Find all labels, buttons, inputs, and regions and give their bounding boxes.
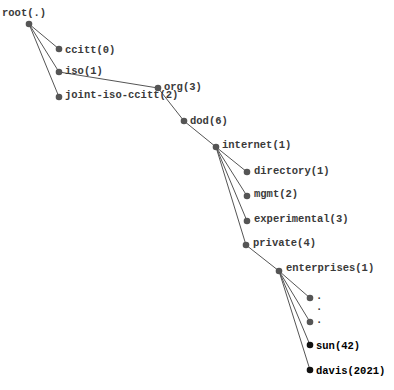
tree-node-directory: directory(1)	[244, 165, 330, 177]
edge-internet-mgmt	[216, 147, 247, 196]
tree-node-root: root(.)	[2, 7, 46, 27]
edge-internet-private	[216, 147, 246, 245]
node-label: mgmt(2)	[254, 188, 298, 200]
tree-node-experimental: experimental(3)	[244, 213, 349, 225]
node-dot-icon	[244, 169, 251, 176]
node-label: .	[316, 301, 322, 313]
node-dot-icon	[56, 46, 63, 53]
edge-enterprises-davis	[279, 271, 310, 370]
node-dot-icon	[181, 118, 188, 125]
node-label: root(.)	[2, 7, 46, 19]
node-label: directory(1)	[254, 165, 330, 177]
edge-root-ccitt	[29, 24, 59, 49]
node-label: experimental(3)	[254, 213, 349, 225]
tree-node-iso: iso(1)	[56, 65, 103, 77]
node-label: dod(6)	[190, 115, 228, 127]
node-dot-icon	[243, 242, 250, 249]
node-dot-icon	[26, 21, 33, 28]
node-label: enterprises(1)	[286, 262, 374, 274]
edge-enterprises-ellipsis2	[279, 271, 310, 322]
tree-node-joint: joint-iso-ccitt(2)	[56, 89, 179, 101]
tree-node-ccitt: ccitt(0)	[56, 44, 116, 56]
node-label: davis(2021)	[316, 365, 385, 377]
node-dot-icon	[244, 218, 251, 225]
tree-node-private: private(4)	[243, 237, 316, 249]
tree-node-internet: internet(1)	[213, 139, 292, 151]
node-dot-icon	[307, 295, 314, 302]
node-dot-icon	[56, 69, 63, 76]
node-dot-icon	[307, 367, 314, 374]
tree-node-davis: davis(2021)	[307, 365, 386, 377]
node-label: sun(42)	[316, 340, 360, 352]
node-label: .	[316, 314, 322, 326]
edge-enterprises-sun	[279, 271, 310, 345]
edge-root-iso	[29, 24, 59, 72]
edge-root-joint	[29, 24, 59, 97]
tree-node-ellipsis-mid: .	[316, 301, 322, 313]
tree-node-enterprises: enterprises(1)	[276, 262, 375, 274]
tree-node-ellipsis2: .	[307, 314, 323, 326]
edge-internet-experimental	[216, 147, 247, 221]
node-dot-icon	[244, 193, 251, 200]
tree-node-dod: dod(6)	[181, 115, 228, 127]
node-dot-icon	[213, 144, 220, 151]
tree-nodes: root(.)ccitt(0)iso(1)joint-iso-ccitt(2)o…	[2, 7, 385, 377]
node-dot-icon	[307, 342, 314, 349]
node-label: ccitt(0)	[65, 44, 115, 56]
node-dot-icon	[155, 85, 162, 92]
node-label: joint-iso-ccitt(2)	[65, 89, 178, 101]
node-label: private(4)	[253, 237, 316, 249]
node-dot-icon	[276, 268, 283, 275]
tree-node-sun: sun(42)	[307, 340, 360, 352]
node-label: iso(1)	[65, 65, 103, 77]
node-dot-icon	[56, 94, 63, 101]
node-label: internet(1)	[222, 139, 291, 151]
node-dot-icon	[307, 319, 314, 326]
tree-node-mgmt: mgmt(2)	[244, 188, 298, 200]
oid-tree-diagram: root(.)ccitt(0)iso(1)joint-iso-ccitt(2)o…	[0, 0, 394, 390]
node-label: org(3)	[164, 81, 202, 93]
